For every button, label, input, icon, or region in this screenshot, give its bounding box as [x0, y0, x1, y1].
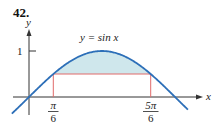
tick-pi-6-denominator: 6 [51, 112, 57, 124]
x-axis-arrow-icon [196, 95, 203, 100]
y-tick-label: 1 [17, 45, 23, 57]
x-axis-label: x [205, 90, 211, 102]
sine-diagram: y 1 x y = sin x π 6 5π 6 [0, 0, 219, 130]
tick-pi-6-numerator: π [51, 99, 57, 111]
y-axis-label: y [25, 16, 31, 28]
tick-5pi-6-denominator: 6 [148, 112, 154, 124]
tick-5pi-6-numerator: 5π [145, 99, 157, 111]
y-axis-arrow-icon [27, 29, 32, 36]
curve-label: y = sin x [79, 31, 118, 43]
